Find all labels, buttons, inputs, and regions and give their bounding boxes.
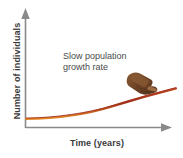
chart-plot-area xyxy=(0,0,183,158)
y-axis-label: Number of individuals xyxy=(12,16,22,126)
y-axis-arrow-icon xyxy=(21,8,29,19)
x-axis xyxy=(26,123,173,132)
pointing-hand-icon xyxy=(127,72,158,94)
annotation-label: Slow population growth rate xyxy=(63,51,139,73)
y-axis xyxy=(21,8,29,128)
population-growth-chart: Number of individuals Time (years) Slow … xyxy=(0,0,183,158)
x-axis-label: Time (years) xyxy=(33,138,161,148)
x-axis-arrow-icon xyxy=(161,123,172,132)
